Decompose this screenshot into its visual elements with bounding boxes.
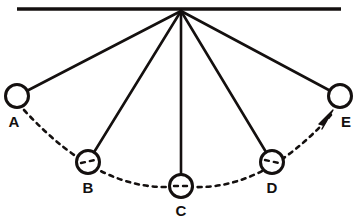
string-to-E: [181, 11, 340, 96]
pendulum-strings: [17, 11, 340, 186]
pendulum-bob-b: [77, 151, 100, 174]
position-label-c: C: [176, 202, 187, 219]
pendulum-bob-d: [261, 151, 284, 174]
pendulum-svg: ABCDE: [0, 0, 357, 221]
position-label-b: B: [83, 179, 94, 196]
pendulum-bob-e: [329, 85, 352, 108]
direction-arrow-icon: [319, 110, 333, 129]
pendulum-diagram: ABCDE: [0, 0, 357, 221]
position-label-e: E: [341, 113, 351, 130]
position-label-d: D: [267, 179, 278, 196]
string-to-A: [17, 11, 181, 96]
position-label-a: A: [9, 113, 20, 130]
pendulum-bob-a: [6, 85, 29, 108]
string-to-D: [181, 11, 272, 162]
